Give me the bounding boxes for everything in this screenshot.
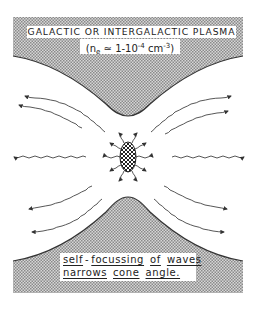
- caption-word: self: [63, 254, 83, 265]
- caption-word: narrows: [63, 267, 107, 278]
- caption-word: angle.: [146, 267, 181, 278]
- caption-word: cone: [113, 267, 140, 278]
- source-ellipse: [120, 142, 136, 172]
- formula-mid: ≃ 1-10: [100, 43, 137, 54]
- formula-unit: cm: [145, 43, 163, 54]
- formula-prefix: (n: [86, 43, 96, 54]
- caption-word: -: [85, 254, 89, 265]
- caption-word: of: [150, 254, 161, 265]
- formula-suffix: ): [170, 43, 174, 54]
- caption-line-2: narrowsconeangle.: [63, 266, 196, 279]
- caption-line-1: self-focussingofwaves: [63, 253, 196, 266]
- caption-word: waves: [167, 254, 202, 265]
- caption-word: focussing: [91, 254, 144, 265]
- caption-box: self-focussingofwaves narrowsconeangle.: [60, 253, 196, 281]
- density-formula: (ne ≃ 1-10-4 cm-3): [80, 39, 180, 54]
- plasma-title: GALACTIC OR INTERGALACTIC PLASMA: [27, 26, 236, 38]
- formula-exp1: -4: [138, 42, 145, 50]
